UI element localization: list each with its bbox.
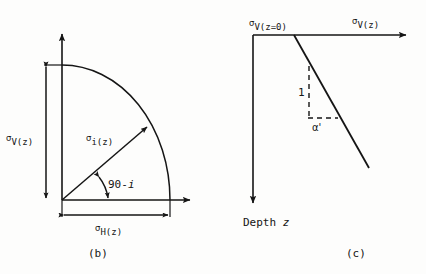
panel-b-vertical-stress-label: σV(z) [6,130,33,147]
figure-page: σV(z) σi(z) σH(z) 90-i (b) σV(z=0) σV(z)… [0,0,426,274]
panel-c-depth-axis-label: Depth z [243,216,289,229]
panel-c-slope-rise-label: 1 [298,86,305,99]
panel-c-drawing [253,35,406,203]
panel-b-angle-label: 90-i [108,178,135,191]
panel-c-depth-axis-label-variable: z [283,216,290,229]
sigma-subscript-axis-c: V(z) [357,20,379,30]
sigma-subscript-vertical-b: V(z) [11,137,33,147]
panel-c-depth-axis-label-prefix: Depth [243,216,283,229]
sigma-subscript-horizontal-b: H(z) [100,227,122,237]
panel-c-slope-angle-label: α' [312,122,321,133]
panel-b-angle-label-variable: i [128,178,135,191]
panel-c-subfigure-label: (c) [346,247,366,260]
sigma-subscript-inclined-b: i(z) [91,137,113,147]
panel-b-horizontal-stress-label: σH(z) [95,220,122,237]
panel-b-angle-arc [99,177,108,198]
sigma-subscript-surface-c: V(z=0) [254,22,287,32]
panel-c-stress-distribution-line [294,35,369,168]
panel-b-inclined-stress-label: σi(z) [86,130,113,147]
panel-c-surface-stress-label: σV(z=0) [249,15,287,32]
panel-b-angle-label-prefix: 90- [108,178,128,191]
figure-drawing-canvas [0,0,426,274]
panel-c-axis-stress-label: σV(z) [352,13,379,30]
panel-b-subfigure-label: (b) [88,247,108,260]
